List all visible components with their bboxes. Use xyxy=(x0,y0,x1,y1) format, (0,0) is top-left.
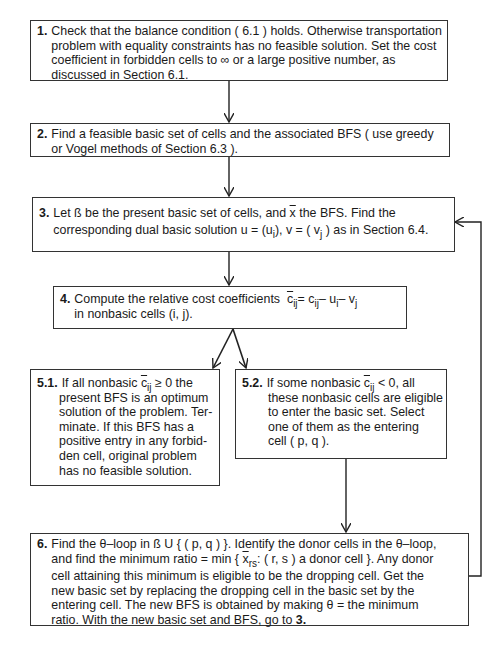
step-5-1-number: 5.1. xyxy=(37,376,62,391)
arrow-4-to-5-1 xyxy=(213,329,233,368)
step-3-line-2: corresponding dual basic solution u = (u… xyxy=(53,223,448,238)
step-4-box: 4. Compute the relative cost coefficient… xyxy=(53,286,407,329)
step-5-1-line-3: solution of the problem. Ter- xyxy=(59,405,213,420)
step-5-2-line-3: to enter the basic set. Select xyxy=(268,405,440,420)
step-4-number: 4. xyxy=(60,292,74,321)
step-3-number: 3. xyxy=(39,206,53,237)
step-6-line-3: cell attaining this minimum is eligible … xyxy=(51,569,462,584)
step-2-number: 2. xyxy=(37,127,51,156)
step-5-1-line-1: If all nonbasic cij ≥ 0 the xyxy=(62,376,213,391)
step-5-1-line-2: present BFS is an optimum xyxy=(59,391,213,406)
step-2-line-2: or Vogel methods of Section 6.3 ). xyxy=(51,142,443,157)
step-6-line-5: entering cell. The new BFS is obtained b… xyxy=(51,598,462,613)
step-1-box: 1. Check that the balance condition ( 6.… xyxy=(30,20,448,81)
step-6-line-4: new basic set by replacing the dropping … xyxy=(51,584,462,599)
step-5-1-line-6: den cell, original problem xyxy=(59,449,213,464)
step-2-box: 2. Find a feasible basic set of cells an… xyxy=(30,123,450,157)
step-5-2-number: 5.2. xyxy=(242,376,267,391)
step-2-line-1: Find a feasible basic set of cells and t… xyxy=(51,127,443,142)
step-6-box: 6. Find the θ–loop in ß U { ( p, q ) }. … xyxy=(30,533,469,626)
step-5-2-line-2: these nonbasic cells are eligible xyxy=(268,391,440,406)
step-3-line-1: Let ß be the present basic set of cells,… xyxy=(53,206,448,221)
step-1-line-1: Check that the balance condition ( 6.1 )… xyxy=(51,24,442,39)
goto-step-3-ref: 3. xyxy=(296,613,306,627)
step-6-number: 6. xyxy=(37,537,51,628)
step-5-1-line-7: has no feasible solution. xyxy=(59,464,213,479)
relative-cost-formula: cij= cij– ui– vj xyxy=(287,292,357,306)
arrow-4-to-5-2 xyxy=(233,329,246,368)
step-5-1-line-5: positive entry in any forbid- xyxy=(59,434,213,449)
step-3-box: 3. Let ß be the present basic set of cel… xyxy=(32,197,455,252)
step-5-1-box: 5.1. If all nonbasic cij ≥ 0 the present… xyxy=(30,369,220,486)
step-5-2-line-4: one of them as the entering xyxy=(268,420,440,435)
step-4-line-1: Compute the relative cost coefficients c… xyxy=(74,292,400,307)
step-6-line-1: Find the θ–loop in ß U { ( p, q ) }. Ide… xyxy=(51,537,462,552)
step-5-1-line-4: minate. If this BFS has a xyxy=(59,420,213,435)
step-1-line-4: discussed in Section 6.1. xyxy=(51,68,442,83)
step-5-2-line-5: cell ( p, q ). xyxy=(268,434,440,449)
step-6-line-6: ratio. With the new basic set and BFS, g… xyxy=(51,613,462,628)
step-5-2-line-1: If some nonbasic cij < 0, all xyxy=(267,376,440,391)
step-1-line-2: problem with equality constraints has no… xyxy=(51,39,442,54)
step-5-2-box: 5.2. If some nonbasic cij < 0, all these… xyxy=(235,369,447,459)
step-4-line-2: in nonbasic cells (i, j). xyxy=(74,307,400,322)
arrow-6-to-3-loop xyxy=(455,222,481,576)
step-1-line-3: coefficient in forbidden cells to ∞ or a… xyxy=(51,53,442,68)
step-6-line-2: and find the minimum ratio = min { xrs: … xyxy=(51,552,462,567)
step-1-number: 1. xyxy=(37,24,51,82)
